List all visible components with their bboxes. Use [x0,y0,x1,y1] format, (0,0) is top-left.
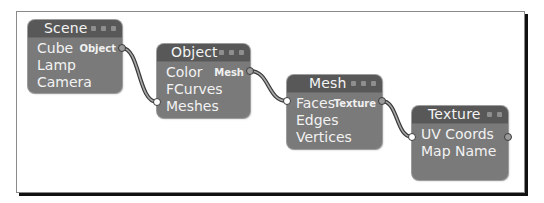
node-title: Mesh [309,74,347,92]
collapse-icon[interactable] [351,81,356,86]
node-header[interactable]: Object [157,44,250,62]
item-label: Map Name [421,143,496,159]
input-socket-meshes[interactable] [153,98,161,106]
node-object[interactable]: Object Color Mesh FCurves Meshes [157,44,250,118]
node-item: Cube Object [37,40,122,57]
item-label: Vertices [296,129,352,145]
item-label: Faces [296,95,335,111]
item-label: Cube [37,40,73,56]
output-label: Mesh [214,64,244,81]
close-icon[interactable] [239,50,244,55]
node-item: Faces Texture [296,95,382,112]
close-icon[interactable] [371,81,376,86]
node-item: Map Name [421,143,508,160]
menu-icon[interactable] [487,112,492,117]
node-header[interactable]: Texture [412,106,508,124]
header-icons [91,26,116,31]
header-icons [219,50,244,55]
item-label: Meshes [166,98,219,114]
item-label: Edges [296,112,339,128]
item-label: Lamp [37,57,76,73]
node-item: Lamp [37,57,122,74]
output-socket-texture[interactable] [378,97,386,105]
collapse-icon[interactable] [219,50,224,55]
menu-icon[interactable] [101,26,106,31]
header-icons [487,112,502,117]
node-texture[interactable]: Texture UV Coords Map Name [412,106,508,180]
node-mesh[interactable]: Mesh Faces Texture Edges Vertices [287,75,382,149]
output-socket-mesh[interactable] [246,67,254,75]
output-socket[interactable] [504,133,512,141]
node-title: Texture [428,105,481,123]
close-icon[interactable] [111,26,116,31]
node-body: Color Mesh FCurves Meshes [157,62,250,115]
node-title: Scene [44,19,88,37]
node-body: Cube Object Lamp Camera [28,38,122,91]
output-socket-object[interactable] [118,44,126,52]
node-item: FCurves [166,81,250,98]
input-socket-uv-coords[interactable] [408,133,416,141]
input-socket-faces[interactable] [283,97,291,105]
node-header[interactable]: Scene [28,20,122,38]
node-body: UV Coords Map Name [412,124,508,160]
menu-icon[interactable] [361,81,366,86]
header-icons [351,81,376,86]
item-label: Color [166,64,203,80]
node-item: Vertices [296,129,382,146]
output-label: Texture [334,95,376,112]
close-icon[interactable] [497,112,502,117]
node-item: Camera [37,74,122,91]
node-scene[interactable]: Scene Cube Object Lamp Camera [28,20,122,93]
node-item: UV Coords [421,126,508,143]
menu-icon[interactable] [229,50,234,55]
node-body: Faces Texture Edges Vertices [287,93,382,146]
output-label: Object [79,40,116,57]
node-item: Meshes [166,98,250,115]
item-label: UV Coords [421,126,494,142]
item-label: FCurves [166,81,223,97]
node-title: Object [171,43,218,61]
node-item: Color Mesh [166,64,250,81]
node-header[interactable]: Mesh [287,75,382,93]
item-label: Camera [37,74,92,90]
node-item: Edges [296,112,382,129]
collapse-icon[interactable] [91,26,96,31]
